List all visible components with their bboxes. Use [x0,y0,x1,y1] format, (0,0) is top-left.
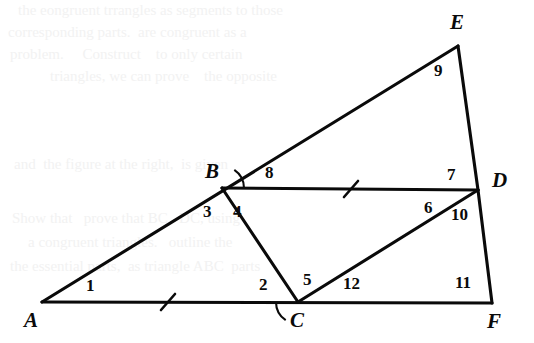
angle-label-12: 12 [343,275,360,292]
angle-label-7: 7 [447,166,456,183]
geometry-figure-page: the eongruent trrangles as segments to t… [0,0,534,343]
vertex-label-F: F [487,311,501,332]
segment-A-E [42,46,458,302]
angle-label-5: 5 [303,271,312,288]
vertex-label-C: C [290,310,304,331]
angle-label-4: 4 [233,203,242,220]
segment-E-D [458,46,478,190]
angle-arc-2-at-C [276,302,286,320]
angle-label-9: 9 [434,62,443,79]
angle-label-6: 6 [424,199,433,216]
angle-label-2: 2 [259,276,268,293]
vertex-label-E: E [450,12,464,33]
segment-D-F [478,190,492,303]
vertex-label-A: A [24,310,38,331]
angle-label-10: 10 [451,206,468,223]
vertex-label-B: B [205,161,219,182]
angle-label-11: 11 [455,274,471,291]
angle-label-8: 8 [265,164,274,181]
angle-label-1: 1 [86,277,95,294]
angle-label-3: 3 [203,203,212,220]
segment-A-F [42,302,492,303]
vertex-label-D: D [492,170,507,191]
